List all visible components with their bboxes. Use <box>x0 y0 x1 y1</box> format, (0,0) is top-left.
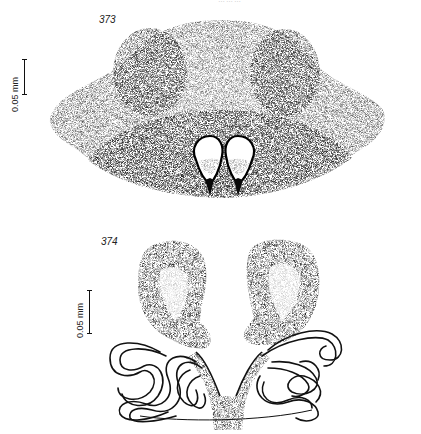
figure-number-374: 374 <box>101 236 118 247</box>
epigynal-lobe-left <box>113 28 187 116</box>
scale-bar-label: 0.05 mm <box>75 303 85 338</box>
epigynum-illustration <box>0 0 421 434</box>
epigynal-lobe-right <box>250 29 320 117</box>
coiled-ducts-left <box>110 343 205 422</box>
scale-bar-line <box>89 290 90 334</box>
